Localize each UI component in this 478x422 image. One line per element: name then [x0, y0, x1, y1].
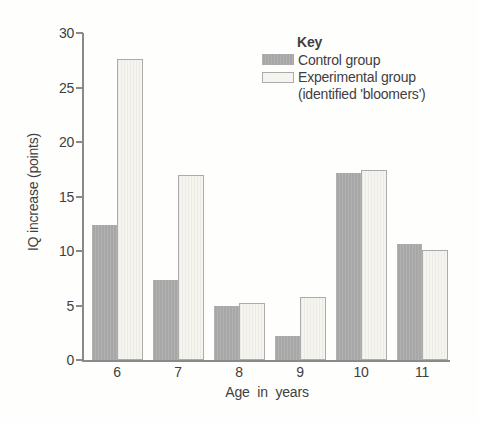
bar-experimental-age-11	[422, 250, 448, 360]
legend-label-control: Control group	[298, 52, 380, 68]
y-tick-label: 15	[42, 188, 74, 206]
legend-title: Key	[297, 34, 426, 51]
bar-control-age-8	[214, 306, 239, 361]
y-tick-label: 20	[42, 133, 74, 151]
y-tick-label: 25	[42, 79, 74, 97]
bar-experimental-age-7	[178, 175, 204, 360]
bar-chart-figure: 051015202530 67891011 IQ increase (point…	[0, 0, 478, 422]
bar-experimental-age-6	[117, 59, 143, 360]
bar-control-age-10	[336, 173, 361, 360]
y-tick-mark	[76, 196, 83, 198]
legend: Key Control group Experimental group (id…	[262, 34, 426, 103]
y-tick-mark	[76, 87, 83, 89]
legend-label-experimental: Experimental group	[298, 69, 416, 85]
y-tick-label: 0	[42, 351, 74, 369]
y-tick-mark	[76, 250, 83, 252]
bar-experimental-age-9	[300, 297, 326, 360]
y-axis-title: IQ increase (points)	[25, 133, 41, 251]
bar-experimental-age-8	[239, 303, 265, 360]
y-axis-line	[82, 33, 84, 362]
x-tick-label: 9	[280, 364, 320, 381]
x-tick-label: 7	[158, 364, 198, 381]
y-tick-mark	[76, 141, 83, 143]
bar-control-age-11	[397, 244, 422, 360]
y-tick-label: 10	[42, 242, 74, 260]
legend-item-experimental: Experimental group	[262, 69, 426, 87]
y-tick-mark	[76, 32, 83, 34]
y-tick-mark	[76, 359, 83, 361]
legend-label-experimental-sub: (identified 'bloomers')	[298, 86, 426, 103]
y-tick-label: 5	[42, 297, 74, 315]
bar-control-age-9	[275, 336, 300, 360]
bar-control-age-7	[153, 280, 178, 360]
x-tick-label: 10	[341, 364, 381, 381]
x-axis-title: Age in years	[225, 384, 308, 400]
y-tick-mark	[76, 305, 83, 307]
bar-experimental-age-10	[361, 170, 387, 360]
experimental-swatch	[262, 72, 294, 83]
x-tick-label: 6	[97, 364, 137, 381]
x-tick-label: 11	[402, 364, 442, 381]
control-swatch	[262, 54, 294, 65]
bar-control-age-6	[92, 225, 117, 360]
y-tick-label: 30	[42, 24, 74, 42]
x-tick-label: 8	[219, 364, 259, 381]
legend-item-control: Control group	[262, 51, 426, 69]
x-axis-line	[82, 360, 450, 362]
